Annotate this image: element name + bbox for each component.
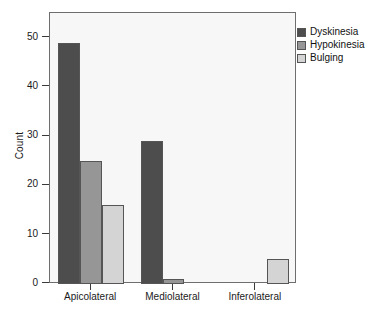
- legend-item-label: Dyskinesia: [310, 27, 358, 37]
- legend-item: Bulging: [297, 52, 377, 64]
- y-axis-tick-label: 40: [0, 81, 38, 91]
- x-axis-tick-mark: [90, 283, 91, 290]
- x-axis-tick-mark: [172, 283, 173, 290]
- legend-item: Hypokinesia: [297, 39, 377, 51]
- legend-swatch-icon: [297, 28, 306, 37]
- legend-item-label: Hypokinesia: [310, 40, 364, 50]
- y-axis-tick-mark: [42, 184, 49, 185]
- chart-legend: DyskinesiaHypokinesiaBulging: [297, 26, 377, 65]
- plot-area: [49, 12, 296, 283]
- bar: [58, 43, 80, 284]
- x-axis-tick-label: Inferolateral: [200, 292, 310, 302]
- y-axis-tick-label: 20: [0, 179, 38, 189]
- bar: [267, 259, 289, 284]
- x-axis-tick-mark: [254, 283, 255, 290]
- y-axis-tick-mark: [42, 282, 49, 283]
- legend-swatch-icon: [297, 54, 306, 63]
- legend-swatch-icon: [297, 41, 306, 50]
- bar: [141, 141, 163, 284]
- y-axis-tick-mark: [42, 85, 49, 86]
- y-axis-tick-label: 50: [0, 32, 38, 42]
- bar: [163, 279, 185, 284]
- y-axis-title: Count: [14, 111, 25, 181]
- bar: [102, 205, 124, 284]
- bars-container: [50, 13, 295, 282]
- bar: [80, 161, 102, 284]
- legend-item-label: Bulging: [310, 53, 343, 63]
- y-axis-tick-mark: [42, 233, 49, 234]
- y-axis-tick-mark: [42, 36, 49, 37]
- y-axis-tick-label: 0: [0, 278, 38, 288]
- y-axis-tick-mark: [42, 135, 49, 136]
- y-axis-tick-label: 30: [0, 130, 38, 140]
- y-axis-tick-label: 10: [0, 229, 38, 239]
- bar-chart-figure: Count 01020304050 ApicolateralMediolater…: [0, 0, 379, 318]
- legend-item: Dyskinesia: [297, 26, 377, 38]
